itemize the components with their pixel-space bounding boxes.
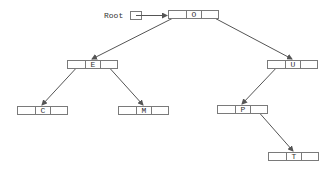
right-pointer-cell — [101, 61, 117, 68]
left-pointer-cell — [119, 107, 137, 114]
tree-node-t: T — [268, 152, 319, 161]
tree-node-c: C — [17, 106, 68, 115]
right-pointer-cell — [152, 107, 168, 114]
edge-e-m — [106, 64, 143, 105]
right-pointer-cell — [51, 107, 67, 114]
node-key: M — [137, 107, 152, 114]
tree-node-p: P — [217, 105, 268, 114]
left-pointer-cell — [169, 11, 187, 18]
left-pointer-cell — [18, 107, 36, 114]
left-pointer-cell — [68, 61, 86, 68]
edge-e-c — [42, 64, 80, 105]
edge-u-p — [242, 64, 280, 104]
right-pointer-cell — [302, 153, 318, 160]
left-pointer-cell — [218, 106, 236, 113]
tree-node-u: U — [267, 60, 318, 69]
node-key: P — [236, 106, 251, 113]
edge-o-e — [92, 14, 181, 59]
tree-edges — [0, 0, 336, 177]
left-pointer-cell — [268, 61, 286, 68]
tree-node-e: E — [67, 60, 118, 69]
left-pointer-cell — [269, 153, 287, 160]
tree-node-o: O — [168, 10, 219, 19]
node-key: E — [86, 61, 101, 68]
right-pointer-cell — [251, 106, 267, 113]
edge-p-t — [256, 109, 293, 151]
right-pointer-cell — [202, 11, 218, 18]
node-key: O — [187, 11, 202, 18]
node-key: T — [287, 153, 302, 160]
node-key: C — [36, 107, 51, 114]
edge-o-u — [207, 14, 292, 59]
right-pointer-cell — [301, 61, 317, 68]
tree-node-m: M — [118, 106, 169, 115]
node-key: U — [286, 61, 301, 68]
